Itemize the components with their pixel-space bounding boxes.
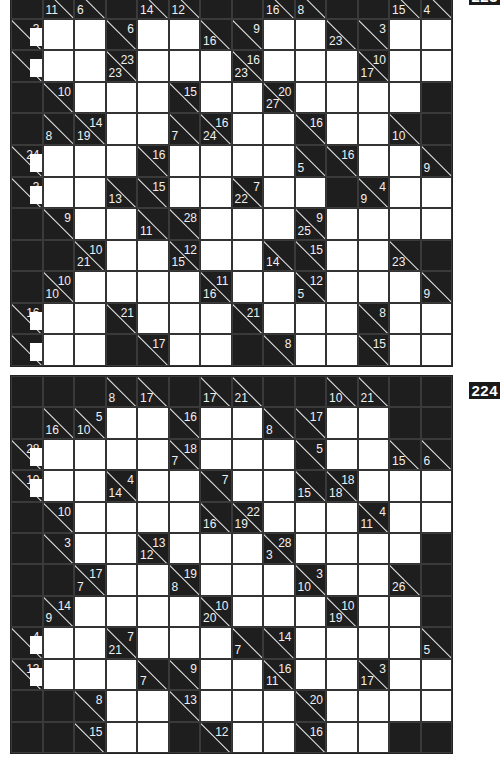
entry-cell[interactable] <box>232 659 264 690</box>
entry-cell[interactable] <box>74 50 106 82</box>
entry-cell[interactable] <box>326 240 358 272</box>
entry-cell[interactable] <box>263 50 295 82</box>
entry-cell[interactable] <box>106 564 138 595</box>
entry-cell[interactable] <box>421 502 453 533</box>
entry-cell[interactable] <box>232 113 264 145</box>
entry-cell[interactable] <box>421 177 453 209</box>
entry-cell[interactable] <box>106 271 138 303</box>
entry-cell[interactable] <box>200 533 232 564</box>
entry-cell[interactable] <box>358 407 390 438</box>
entry-cell[interactable] <box>263 502 295 533</box>
entry-cell[interactable] <box>200 690 232 721</box>
entry-cell[interactable] <box>74 177 106 209</box>
entry-cell[interactable] <box>232 470 264 501</box>
entry-cell[interactable] <box>169 334 201 366</box>
entry-cell[interactable] <box>326 50 358 82</box>
entry-cell[interactable] <box>263 113 295 145</box>
entry-cell[interactable] <box>169 627 201 658</box>
entry-cell[interactable] <box>169 596 201 627</box>
entry-cell[interactable] <box>295 596 327 627</box>
entry-cell[interactable] <box>232 439 264 470</box>
entry-cell[interactable] <box>421 334 453 366</box>
entry-cell[interactable] <box>74 439 106 470</box>
entry-cell[interactable] <box>326 271 358 303</box>
entry-cell[interactable] <box>43 627 75 658</box>
entry-cell[interactable] <box>389 271 421 303</box>
entry-cell[interactable] <box>421 208 453 240</box>
entry-cell[interactable] <box>43 145 75 177</box>
entry-cell[interactable] <box>326 439 358 470</box>
entry-cell[interactable] <box>232 82 264 114</box>
entry-cell[interactable] <box>74 271 106 303</box>
entry-cell[interactable] <box>137 564 169 595</box>
entry-cell[interactable] <box>358 208 390 240</box>
entry-cell[interactable] <box>389 533 421 564</box>
entry-cell[interactable] <box>326 407 358 438</box>
entry-cell[interactable] <box>137 303 169 335</box>
entry-cell[interactable] <box>137 50 169 82</box>
entry-cell[interactable] <box>389 82 421 114</box>
entry-cell[interactable] <box>232 533 264 564</box>
entry-cell[interactable] <box>263 439 295 470</box>
entry-cell[interactable] <box>358 271 390 303</box>
entry-cell[interactable] <box>137 596 169 627</box>
entry-cell[interactable] <box>74 334 106 366</box>
entry-cell[interactable] <box>421 690 453 721</box>
entry-cell[interactable] <box>358 82 390 114</box>
entry-cell[interactable] <box>137 19 169 51</box>
entry-cell[interactable] <box>295 50 327 82</box>
entry-cell[interactable] <box>263 177 295 209</box>
entry-cell[interactable] <box>358 564 390 595</box>
entry-cell[interactable] <box>169 303 201 335</box>
entry-cell[interactable] <box>200 407 232 438</box>
entry-cell[interactable] <box>200 208 232 240</box>
entry-cell[interactable] <box>326 113 358 145</box>
entry-cell[interactable] <box>106 208 138 240</box>
entry-cell[interactable] <box>43 334 75 366</box>
entry-cell[interactable] <box>74 533 106 564</box>
entry-cell[interactable] <box>169 19 201 51</box>
entry-cell[interactable] <box>358 113 390 145</box>
entry-cell[interactable] <box>326 208 358 240</box>
entry-cell[interactable] <box>106 690 138 721</box>
entry-cell[interactable] <box>263 208 295 240</box>
entry-cell[interactable] <box>43 303 75 335</box>
entry-cell[interactable] <box>200 439 232 470</box>
entry-cell[interactable] <box>326 502 358 533</box>
entry-cell[interactable] <box>74 659 106 690</box>
entry-cell[interactable] <box>137 470 169 501</box>
entry-cell[interactable] <box>232 690 264 721</box>
entry-cell[interactable] <box>137 407 169 438</box>
entry-cell[interactable] <box>389 690 421 721</box>
entry-cell[interactable] <box>200 177 232 209</box>
entry-cell[interactable] <box>389 502 421 533</box>
entry-cell[interactable] <box>295 19 327 51</box>
entry-cell[interactable] <box>263 145 295 177</box>
entry-cell[interactable] <box>43 439 75 470</box>
entry-cell[interactable] <box>389 208 421 240</box>
entry-cell[interactable] <box>358 596 390 627</box>
entry-cell[interactable] <box>137 627 169 658</box>
entry-cell[interactable] <box>137 113 169 145</box>
entry-cell[interactable] <box>106 502 138 533</box>
entry-cell[interactable] <box>137 271 169 303</box>
entry-cell[interactable] <box>358 240 390 272</box>
entry-cell[interactable] <box>106 240 138 272</box>
entry-cell[interactable] <box>389 334 421 366</box>
entry-cell[interactable] <box>232 596 264 627</box>
entry-cell[interactable] <box>137 722 169 753</box>
entry-cell[interactable] <box>169 145 201 177</box>
entry-cell[interactable] <box>358 145 390 177</box>
entry-cell[interactable] <box>169 271 201 303</box>
entry-cell[interactable] <box>295 303 327 335</box>
entry-cell[interactable] <box>232 145 264 177</box>
entry-cell[interactable] <box>106 82 138 114</box>
entry-cell[interactable] <box>326 334 358 366</box>
entry-cell[interactable] <box>200 627 232 658</box>
entry-cell[interactable] <box>169 177 201 209</box>
entry-cell[interactable] <box>200 145 232 177</box>
entry-cell[interactable] <box>106 533 138 564</box>
entry-cell[interactable] <box>43 177 75 209</box>
entry-cell[interactable] <box>295 627 327 658</box>
entry-cell[interactable] <box>200 50 232 82</box>
